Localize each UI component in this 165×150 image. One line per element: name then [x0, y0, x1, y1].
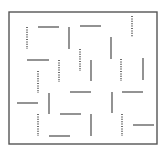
- segment-diagram: [0, 0, 165, 150]
- segment-group: [17, 16, 154, 136]
- diagram-border: [9, 12, 157, 144]
